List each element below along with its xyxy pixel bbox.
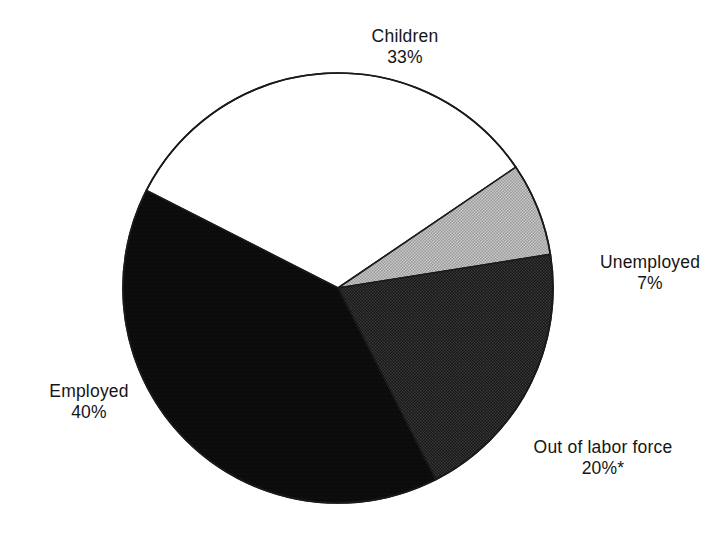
pie-label-children-value: 33% [330,47,480,68]
pie-chart: Children 33% Unemployed 7% Out of labor … [0,0,725,542]
pie-label-employed-name: Employed [14,381,164,402]
pie-slices [123,73,553,503]
pie-label-children: Children 33% [330,26,480,69]
pie-label-employed-value: 40% [14,402,164,423]
pie-label-unemployed-value: 7% [580,273,720,294]
pie-label-unemployed-name: Unemployed [580,252,720,273]
pie-label-out-of-labor-force-value: 20%* [498,458,708,479]
pie-label-unemployed: Unemployed 7% [580,252,720,295]
pie-label-children-name: Children [330,26,480,47]
pie-label-employed: Employed 40% [14,381,164,424]
pie-label-out-of-labor-force: Out of labor force 20%* [498,437,708,480]
pie-label-out-of-labor-force-name: Out of labor force [498,437,708,458]
